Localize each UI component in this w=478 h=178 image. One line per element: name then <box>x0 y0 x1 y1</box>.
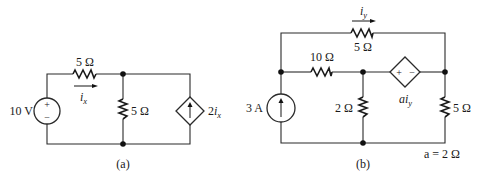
label-r-2: 2 Ω <box>335 101 353 115</box>
resistor-shunt-5ohm <box>119 99 127 119</box>
label-r-series: 5 Ω <box>76 55 94 69</box>
minus-sign: − <box>409 67 415 78</box>
subscript: x <box>82 96 87 106</box>
node-dot <box>360 69 366 75</box>
wire <box>96 74 190 98</box>
plus-sign: + <box>44 99 50 110</box>
caption-a: (a) <box>116 157 129 171</box>
wire <box>373 33 445 97</box>
dependent-voltage-source-icon <box>390 57 420 87</box>
label-r-shunt: 5 Ω <box>131 104 149 118</box>
wire <box>47 124 190 144</box>
label-r-top: 5 Ω <box>354 40 372 54</box>
node-dot <box>442 69 448 75</box>
label-current-source: 3 A <box>246 101 263 115</box>
resistor-2ohm <box>359 97 367 117</box>
label-r-10: 10 Ω <box>310 50 334 64</box>
label-r-right: 5 Ω <box>453 101 471 115</box>
arrowhead-icon <box>370 19 376 23</box>
label-current-ix: ix <box>80 90 87 106</box>
subscript: y <box>362 10 367 20</box>
node-dot <box>120 141 126 147</box>
label-current-iy: iy <box>360 4 367 20</box>
subscript: x <box>216 110 221 120</box>
resistor-10ohm <box>311 68 332 76</box>
label-dep-source: 2ix <box>208 104 221 120</box>
label-dep-source: aiy <box>399 92 412 108</box>
resistor-top-5ohm <box>351 29 373 37</box>
node-dot <box>360 140 366 146</box>
resistor-right-5ohm <box>441 97 449 117</box>
arrowhead-icon <box>279 98 284 103</box>
circuit-b: + − iy 5 Ω 10 Ω 3 A 2 Ω 5 Ω aiy a = 2 Ω … <box>246 4 471 171</box>
minus-sign: − <box>44 112 50 123</box>
arrowhead-icon <box>92 84 98 88</box>
subscript: y <box>407 98 412 108</box>
caption-b: (b) <box>356 157 370 171</box>
circuit-a: + − 5 Ω 10 V 5 Ω ix 2ix (a) <box>10 55 222 171</box>
resistor-series-5ohm <box>73 70 96 78</box>
label-source-voltage: 10 V <box>10 104 34 118</box>
circuit-figure: + − 5 Ω 10 V 5 Ω ix 2ix (a) <box>0 0 478 178</box>
node-dot <box>120 71 126 77</box>
label-param-note: a = 2 Ω <box>424 147 460 161</box>
plus-sign: + <box>396 67 402 78</box>
wire <box>47 74 73 98</box>
arrowhead-icon <box>188 102 193 107</box>
node-dot <box>278 69 284 75</box>
